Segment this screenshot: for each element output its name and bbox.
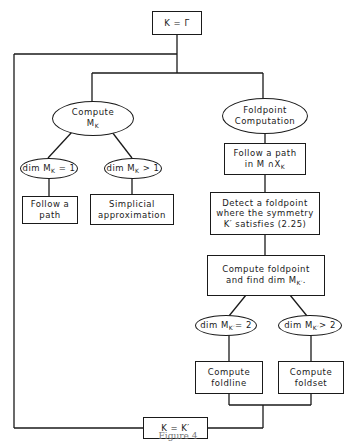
- dim-eq-1-label: dim MK = 1: [23, 163, 76, 175]
- compute-mk-line1: Compute: [72, 107, 114, 118]
- compute-foldset-node: Compute foldset: [278, 361, 344, 394]
- start-label: K = Γ: [164, 18, 189, 29]
- dim-eq-2-label: dim MK′= 2: [200, 320, 252, 332]
- follow-path-mx-line2: in M ∩XK: [245, 159, 285, 171]
- compute-foldline-node: Compute foldline: [195, 361, 263, 394]
- dim-gt-2-label: dim MK′> 2: [284, 320, 336, 332]
- dim-gt-1-label: dim MK > 1: [107, 163, 160, 175]
- follow-path-mx-line1: Follow a path: [233, 148, 296, 159]
- follow-path-line2: path: [39, 210, 60, 221]
- dim-gt-2-node: dim MK′> 2: [278, 315, 342, 336]
- foldline-line1: Compute: [208, 367, 250, 378]
- compute-foldpoint-line1: Compute foldpoint: [222, 264, 310, 275]
- compute-mk-node: Compute MK: [52, 101, 134, 136]
- simplicial-line1: Simplicial: [109, 199, 155, 210]
- simplicial-line2: approximation: [98, 210, 166, 221]
- dim-gt-1-node: dim MK > 1: [104, 158, 162, 179]
- detect-line3: K′ satisfies (2.25): [224, 219, 307, 230]
- foldset-line1: Compute: [290, 367, 332, 378]
- foldpoint-line2: Computation: [235, 116, 296, 127]
- compute-mk-line2: MK: [87, 118, 99, 130]
- dim-eq-2-node: dim MK′= 2: [195, 315, 257, 336]
- follow-path-mx-node: Follow a path in M ∩XK: [224, 143, 306, 175]
- dim-eq-1-node: dim MK = 1: [20, 158, 78, 179]
- detect-foldpoint-node: Detect a foldpoint where the symmetry K′…: [210, 192, 320, 235]
- follow-path-node: Follow a path: [22, 196, 78, 224]
- foldpoint-computation-node: Foldpoint Computation: [222, 98, 308, 134]
- simplicial-node: Simplicial approximation: [90, 194, 174, 225]
- compute-foldpoint-node: Compute foldpoint and find dim MK′.: [207, 255, 325, 296]
- foldline-line2: foldline: [211, 378, 246, 389]
- start-node: K = Γ: [152, 11, 202, 35]
- foldset-line2: foldset: [295, 378, 327, 389]
- foldpoint-line1: Foldpoint: [243, 105, 287, 116]
- follow-path-line1: Follow a: [31, 199, 70, 210]
- detect-line2: where the symmetry: [216, 208, 314, 219]
- detect-line1: Detect a foldpoint: [222, 198, 308, 209]
- compute-foldpoint-line2: and find dim MK′.: [226, 275, 306, 287]
- figure-caption: Figure 4: [0, 431, 356, 441]
